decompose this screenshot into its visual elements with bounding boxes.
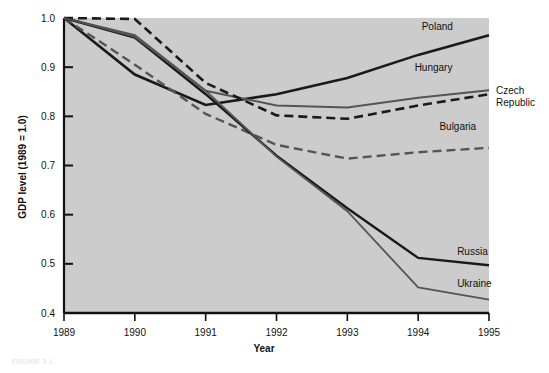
x-tick-label: 1995 — [478, 327, 501, 338]
gdp-line-chart: 0.40.50.60.70.80.91.0 198919901991199219… — [0, 0, 549, 373]
series-label-ukraine: Ukraine — [457, 278, 492, 289]
x-tick-label: 1990 — [124, 327, 147, 338]
y-tick-label: 0.9 — [41, 62, 55, 73]
y-tick-label: 0.4 — [41, 308, 55, 319]
y-tick-label: 1.0 — [41, 13, 55, 24]
series-label-hungary: Hungary — [415, 62, 453, 73]
x-axis-title: Year — [253, 343, 274, 354]
y-tick-label: 0.8 — [41, 111, 55, 122]
y-tick-label: 0.5 — [41, 258, 55, 269]
x-tick-label: 1993 — [336, 327, 359, 338]
series-label-poland: Poland — [422, 21, 453, 32]
y-tick-label: 0.6 — [41, 209, 55, 220]
y-tick-label: 0.7 — [41, 160, 55, 171]
figure-gdp-transition: 0.40.50.60.70.80.91.0 198919901991199219… — [0, 0, 549, 373]
x-tick-label: 1989 — [53, 327, 76, 338]
y-axis-title: GDP level (1989 = 1.0) — [17, 115, 28, 219]
x-tick-label: 1994 — [407, 327, 430, 338]
series-label-russia: Russia — [457, 246, 488, 257]
figure-caption: FIGURE 3.1 — [12, 358, 53, 365]
x-tick-label: 1992 — [265, 327, 288, 338]
series-label-bulgaria: Bulgaria — [439, 121, 476, 132]
x-tick-label: 1991 — [195, 327, 218, 338]
